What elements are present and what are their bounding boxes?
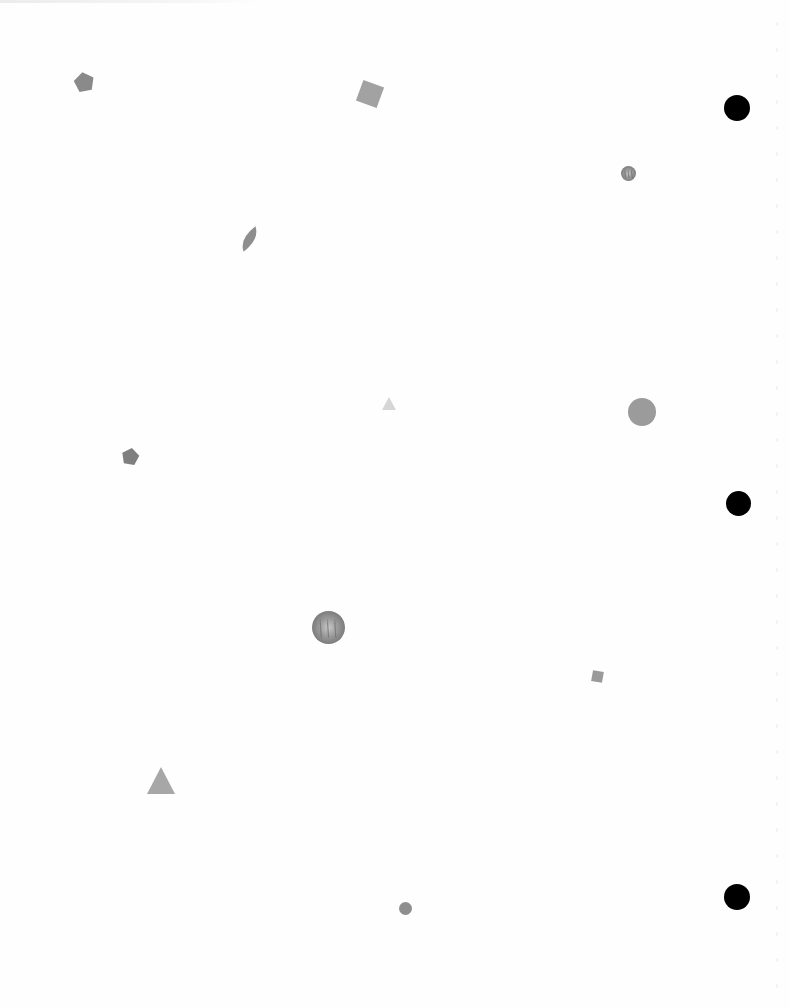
pentagon-shape bbox=[71, 69, 96, 94]
textured-circle-shape bbox=[621, 166, 636, 181]
triangle-shape bbox=[382, 397, 396, 410]
leaf-shape bbox=[235, 222, 264, 255]
triangle-shape bbox=[147, 767, 175, 794]
scan-top-edge bbox=[0, 0, 270, 3]
square-shape bbox=[356, 80, 384, 108]
pentagon-shape bbox=[120, 445, 142, 466]
punch-hole bbox=[724, 884, 750, 910]
textured-circle-shape bbox=[312, 611, 345, 644]
circle-shape bbox=[399, 902, 412, 915]
punch-hole bbox=[726, 491, 751, 516]
punch-hole bbox=[724, 95, 750, 121]
circle-shape bbox=[628, 398, 656, 426]
square-shape bbox=[591, 670, 604, 683]
scanned-page bbox=[0, 0, 790, 1008]
scan-right-edge bbox=[776, 0, 778, 1008]
